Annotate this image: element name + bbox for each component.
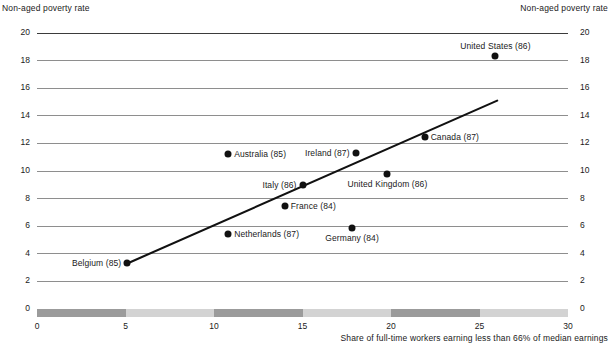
y-tick-label-2: 2 <box>8 275 30 285</box>
x-tick-label-15: 15 <box>291 321 315 331</box>
data-point <box>281 202 288 209</box>
data-point <box>299 181 306 188</box>
x-tick-label-5: 5 <box>114 321 138 331</box>
y-tick-label-10: 10 <box>580 165 602 175</box>
data-point-label: Belgium (85) <box>72 258 121 268</box>
x-axis-band <box>37 309 568 317</box>
gridline-y-8 <box>37 198 568 199</box>
x-band-segment-5-10 <box>126 309 215 317</box>
y-tick-label-10: 10 <box>8 165 30 175</box>
data-point-label: United States (86) <box>460 41 530 51</box>
x-tick-label-10: 10 <box>202 321 226 331</box>
gridline-y-14 <box>37 115 568 116</box>
gridline-y-2 <box>37 281 568 282</box>
x-tick-label-30: 30 <box>556 321 580 331</box>
y-tick-label-20: 20 <box>580 27 602 37</box>
y-tick-label-6: 6 <box>580 220 602 230</box>
x-tick-label-20: 20 <box>379 321 403 331</box>
data-point-label: Germany (84) <box>325 233 379 243</box>
y-tick-label-16: 16 <box>580 82 602 92</box>
x-band-segment-25-30 <box>480 309 569 317</box>
gridline-y-6 <box>37 226 568 227</box>
trend-line <box>127 101 497 264</box>
y-tick-label-12: 12 <box>580 137 602 147</box>
y-axis-left-title: Non-aged poverty rate <box>2 3 90 13</box>
data-point-label: Ireland (87) <box>305 148 350 158</box>
gridline-y-18 <box>37 60 568 61</box>
y-tick-label-16: 16 <box>8 82 30 92</box>
data-point <box>384 170 391 177</box>
data-point-label: France (84) <box>291 201 336 211</box>
y-tick-label-0: 0 <box>580 303 602 313</box>
data-point <box>124 260 131 267</box>
data-point-label: Canada (87) <box>431 132 479 142</box>
y-axis-right-title: Non-aged poverty rate <box>520 3 608 13</box>
x-tick-label-0: 0 <box>25 321 49 331</box>
gridline-y-12 <box>37 143 568 144</box>
y-tick-label-14: 14 <box>580 110 602 120</box>
data-point <box>225 231 232 238</box>
data-point <box>225 151 232 158</box>
gridline-y-20 <box>37 33 568 34</box>
y-tick-label-8: 8 <box>8 193 30 203</box>
y-tick-label-4: 4 <box>8 248 30 258</box>
data-point-label: United Kingdom (86) <box>348 179 428 189</box>
x-band-segment-0-5 <box>37 309 126 317</box>
x-axis-title: Share of full-time workers earning less … <box>340 333 608 343</box>
data-point-label: Australia (85) <box>234 149 286 159</box>
data-point-label: Netherlands (87) <box>234 229 299 239</box>
y-tick-label-4: 4 <box>580 248 602 258</box>
y-tick-label-12: 12 <box>8 137 30 147</box>
gridline-y-16 <box>37 88 568 89</box>
y-tick-label-14: 14 <box>8 110 30 120</box>
data-point <box>349 224 356 231</box>
x-band-segment-10-15 <box>214 309 303 317</box>
y-tick-label-2: 2 <box>580 275 602 285</box>
y-tick-label-8: 8 <box>580 193 602 203</box>
x-band-segment-20-25 <box>391 309 480 317</box>
x-tick-label-25: 25 <box>468 321 492 331</box>
trendline-layer <box>0 0 610 348</box>
y-tick-label-0: 0 <box>8 303 30 313</box>
gridline-y-4 <box>37 253 568 254</box>
data-point <box>492 53 499 60</box>
data-point <box>421 133 428 140</box>
gridline-y-10 <box>37 171 568 172</box>
x-band-segment-15-20 <box>303 309 392 317</box>
data-point-label: Italy (86) <box>262 180 296 190</box>
y-tick-label-20: 20 <box>8 27 30 37</box>
y-tick-label-18: 18 <box>580 55 602 65</box>
y-tick-label-18: 18 <box>8 55 30 65</box>
data-point <box>352 150 359 157</box>
y-tick-label-6: 6 <box>8 220 30 230</box>
scatter-chart: Non-aged poverty rate Non-aged poverty r… <box>0 0 610 348</box>
